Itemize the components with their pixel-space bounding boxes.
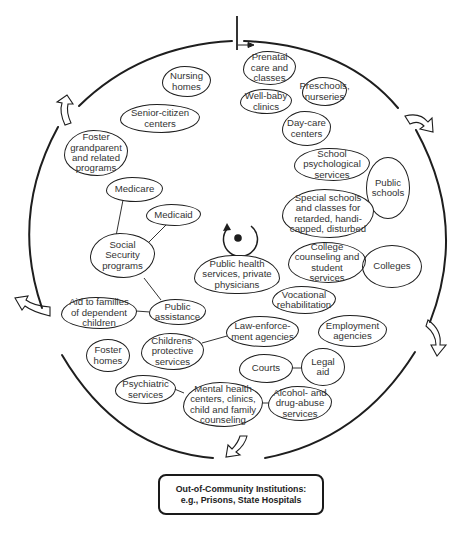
flow-arrow-left-icon	[15, 296, 50, 316]
node-aid-to-families: Aid to families of dependent children	[61, 297, 137, 329]
entry-arrow-icon	[248, 43, 254, 48]
center-dot-icon	[234, 234, 242, 242]
out-of-community-line2: e.g., Prisons, State Hospitals	[181, 495, 302, 506]
out-of-community-line1: Out-of-Community Institutions:	[176, 484, 306, 495]
node-preschools: Preschools, nurseries	[302, 77, 347, 106]
node-well-baby-clinics: Well-baby clinics	[240, 89, 292, 114]
link-social-security-public-assistance	[144, 278, 161, 300]
node-psychiatric-services: Psychiatric services	[115, 375, 176, 404]
node-school-psychological-services: School psychological services	[294, 148, 370, 181]
node-foster-grandparent-programs: Foster grandparent and related programs	[64, 130, 128, 176]
node-college-counseling: College counseling and student services	[288, 242, 366, 283]
node-colleges: Colleges	[362, 245, 422, 288]
flow-arrow-top-left-icon	[57, 95, 73, 125]
node-mental-health-centers: Mental health centers, clinics, child an…	[183, 382, 263, 427]
center-rotation-arrowhead-icon	[223, 223, 231, 231]
link-medicare-social-security	[116, 200, 123, 236]
link-aid-families-public-assistance	[136, 311, 150, 312]
flow-arrow-bottom-icon	[226, 436, 247, 457]
cycle-arc-left	[29, 127, 58, 308]
node-special-schools: Special schools and classes for retarded…	[282, 189, 374, 238]
cycle-arc-right	[416, 130, 446, 322]
link-medicaid-social-security	[148, 224, 167, 243]
node-alcohol-drug-abuse-services: Alcohol- and drug-abuse services	[268, 386, 332, 421]
out-of-community-box: Out-of-Community Institutions: e.g., Pri…	[158, 474, 324, 515]
node-public-assistance: Public assistance	[149, 299, 206, 325]
node-senior-citizen-centers: Senior-citizen centers	[120, 104, 200, 133]
node-prenatal-care: Prenatal care and classes	[243, 51, 296, 85]
center-rotation-arc	[223, 226, 257, 256]
node-vocational-rehabilitation: Vocational rehabilitation	[272, 286, 336, 314]
cycle-arc-top-left	[79, 41, 232, 106]
flow-arrow-top-right-icon	[405, 115, 433, 132]
link-childrens-protective-law-enforcement	[202, 336, 227, 343]
node-public-health-services: Public health services, private physicia…	[194, 255, 280, 294]
node-legal-aid: Legal aid	[301, 348, 345, 386]
node-foster-homes: Foster homes	[86, 339, 130, 372]
flow-arrow-bottom-right-icon	[426, 320, 446, 356]
